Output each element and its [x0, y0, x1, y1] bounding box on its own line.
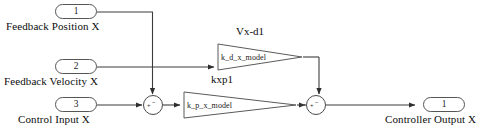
- sum-block-1-left-sign: +: [147, 102, 151, 108]
- sum-block-2-left-sign: +: [310, 102, 314, 108]
- output-port-1-label: Controller Output X: [385, 113, 476, 125]
- gain-block-k-p-x-model[interactable]: k_p_x_model: [183, 91, 297, 119]
- gain-block-k-p-x-model-label: k_p_x_model: [187, 101, 232, 110]
- block-diagram-canvas: 1 Feedback Position X 2 Feedback Velocit…: [0, 0, 489, 132]
- sum-block-2[interactable]: + −: [306, 95, 326, 115]
- wire-feedback-position-to-sum1: [97, 12, 153, 94]
- sum-block-1[interactable]: + −: [143, 95, 163, 115]
- sum-block-1-top-sign: −: [152, 99, 156, 105]
- input-port-1-number: 1: [74, 6, 79, 16]
- gain-block-k-d-x-model-annotation: Vx-d1: [236, 25, 264, 37]
- gain-block-k-d-x-model[interactable]: k_d_x_model: [217, 43, 303, 71]
- input-port-2-number: 2: [74, 61, 79, 71]
- input-port-1[interactable]: 1: [55, 4, 97, 19]
- gain-block-k-d-x-model-label: k_d_x_model: [221, 53, 266, 62]
- gain-block-k-p-x-model-annotation: kxp1: [211, 73, 233, 85]
- input-port-1-label: Feedback Position X: [6, 20, 100, 32]
- input-port-2-label: Feedback Velocity X: [4, 75, 98, 87]
- sum-block-2-top-sign: −: [315, 99, 319, 105]
- output-port-1[interactable]: 1: [423, 97, 465, 112]
- input-port-3-label: Control Input X: [18, 113, 90, 125]
- output-port-1-number: 1: [442, 99, 447, 109]
- input-port-3-number: 3: [74, 99, 79, 109]
- input-port-3[interactable]: 3: [55, 97, 97, 112]
- input-port-2[interactable]: 2: [55, 59, 97, 74]
